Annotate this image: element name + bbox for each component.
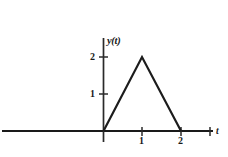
y-axis-label: y(t): [107, 36, 120, 47]
x-tick-label-1: 1: [139, 136, 144, 146]
plot-canvas: [0, 0, 228, 157]
signal-plot-figure: y(t) t 2 1 1 2: [0, 0, 228, 157]
x-tick-label-2: 2: [178, 136, 183, 146]
y-tick-label-1: 1: [90, 89, 95, 99]
triangular-pulse-waveform: [104, 57, 182, 131]
x-axis-label: t: [216, 127, 219, 137]
y-tick-label-2: 2: [90, 52, 95, 62]
